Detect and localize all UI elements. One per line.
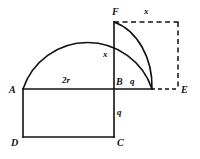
right-segment-label: q (130, 77, 135, 86)
vertex-label-F: F (112, 7, 119, 17)
geometry-canvas (0, 0, 200, 159)
vertex-label-C: C (117, 138, 124, 148)
vertex-label-E: E (181, 85, 188, 95)
vertex-label-D: D (11, 138, 18, 148)
vertex-label-A: A (9, 85, 16, 95)
diameter-label: 2r (62, 76, 70, 85)
vertex-label-B: B (116, 77, 123, 87)
top-width-label: x (144, 7, 149, 16)
height-label: x (103, 50, 108, 59)
geometry-figure: A B C D E F 2r x x q q (0, 0, 200, 159)
lower-segment-label: q (117, 108, 122, 117)
